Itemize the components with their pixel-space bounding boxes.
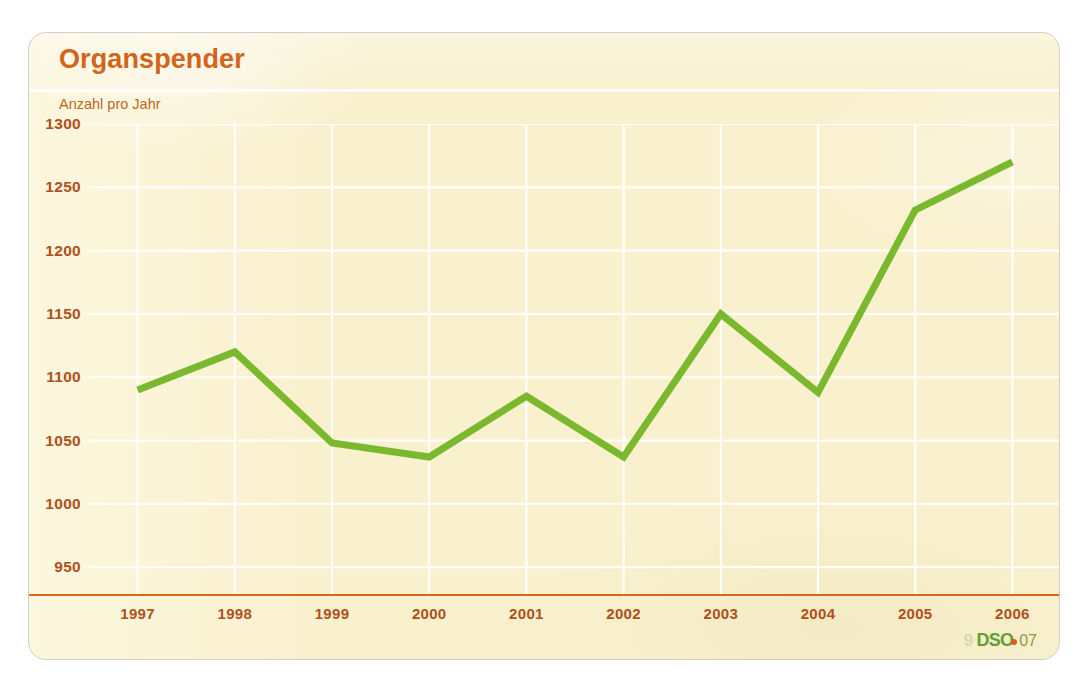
x-tick-label: 1997: [120, 605, 155, 622]
y-tick-label: 1250: [45, 178, 81, 196]
x-tick-label: 2003: [704, 605, 739, 622]
logo-wordmark: DSO: [977, 630, 1014, 651]
x-tick-label: 2002: [606, 605, 641, 622]
logo-year-text: 07: [1019, 632, 1037, 650]
x-axis-line: [29, 594, 1059, 596]
screenshot-root: Organspender Anzahl pro Jahr 13001250120…: [0, 0, 1088, 675]
title-divider: [29, 89, 1059, 92]
y-tick-label: 1150: [46, 305, 81, 323]
y-tick-label: 950: [54, 558, 81, 576]
logo-dot-icon: [1011, 639, 1017, 645]
y-tick-label: 1050: [45, 432, 81, 450]
y-tick-label: 1300: [45, 115, 81, 133]
y-tick-label: 1100: [46, 368, 81, 386]
y-tick-label: 1000: [45, 495, 81, 513]
title-band: Organspender: [29, 33, 1059, 89]
y-axis-unit-label: Anzahl pro Jahr: [59, 96, 161, 112]
x-axis-tick-labels: 1997199819992000200120022003200420052006: [29, 601, 1059, 631]
plot-area: [89, 124, 1060, 595]
x-tick-label: 1998: [218, 605, 253, 622]
x-tick-label: 2004: [801, 605, 836, 622]
x-tick-label: 2006: [995, 605, 1030, 622]
y-tick-label: 1200: [45, 242, 81, 260]
dso-logo: 9 DSO 07: [964, 630, 1037, 651]
page-title: Organspender: [59, 44, 245, 75]
vertical-gridlines: [138, 124, 1013, 595]
x-tick-label: 2000: [412, 605, 447, 622]
x-tick-label: 2001: [509, 605, 544, 622]
chart-card: Organspender Anzahl pro Jahr 13001250120…: [28, 32, 1060, 660]
y-axis-tick-labels: 1300125012001150110010501000950: [29, 33, 87, 659]
series-line-organspender: [138, 162, 1013, 457]
x-tick-label: 1999: [315, 605, 350, 622]
logo-ghost-text: 9: [964, 631, 973, 651]
x-tick-label: 2005: [898, 605, 933, 622]
line-chart-svg: [89, 124, 1060, 595]
